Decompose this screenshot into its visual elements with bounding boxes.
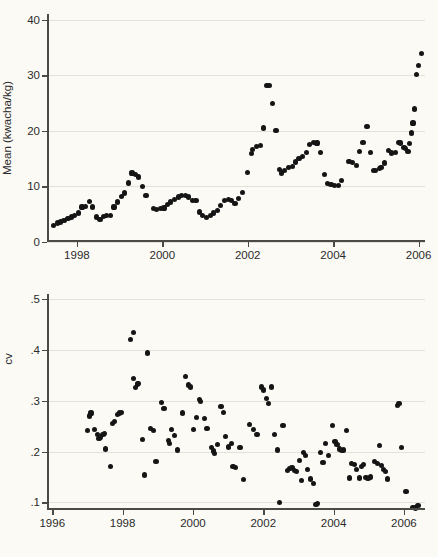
x-tick bbox=[404, 510, 405, 515]
data-point-cv bbox=[269, 384, 274, 389]
data-point-mean bbox=[218, 203, 223, 208]
data-point-cv bbox=[119, 410, 124, 415]
chart-panel-mean: Mean (kwacha/kg) 01020304019982000200220… bbox=[0, 0, 438, 285]
data-point-cv bbox=[153, 459, 158, 464]
data-point-cv bbox=[297, 458, 302, 463]
data-point-cv bbox=[330, 423, 335, 428]
y-tick-label: .2 bbox=[30, 446, 40, 458]
data-point-mean bbox=[357, 149, 362, 154]
gridline-y bbox=[47, 20, 425, 21]
data-point-cv bbox=[347, 475, 352, 480]
data-point-mean bbox=[108, 213, 113, 218]
data-point-mean bbox=[115, 199, 120, 204]
data-point-cv bbox=[145, 350, 150, 355]
data-point-mean bbox=[122, 190, 127, 195]
y-tick bbox=[42, 186, 47, 187]
x-tick-label: 2006 bbox=[406, 249, 432, 261]
data-point-mean bbox=[87, 199, 92, 204]
data-point-cv bbox=[277, 500, 282, 505]
x-tick bbox=[248, 242, 249, 247]
data-point-mean bbox=[410, 120, 415, 125]
data-point-cv bbox=[357, 475, 362, 480]
data-point-cv bbox=[272, 432, 277, 437]
data-point-cv bbox=[204, 426, 209, 431]
data-point-cv bbox=[399, 445, 404, 450]
data-point-cv bbox=[275, 447, 280, 452]
data-point-cv bbox=[194, 415, 199, 420]
data-point-mean bbox=[267, 83, 272, 88]
data-point-mean bbox=[419, 51, 424, 56]
data-point-cv bbox=[180, 410, 185, 415]
data-point-cv bbox=[247, 422, 252, 427]
data-point-cv bbox=[151, 428, 156, 433]
data-point-cv bbox=[140, 437, 145, 442]
figure-root: Mean (kwacha/kg) 01020304019982000200220… bbox=[0, 0, 438, 557]
x-tick-label: 1998 bbox=[64, 249, 90, 261]
data-point-cv bbox=[131, 330, 136, 335]
data-point-cv bbox=[108, 464, 113, 469]
x-tick bbox=[333, 242, 334, 247]
gridline-y bbox=[47, 452, 425, 453]
data-point-cv bbox=[233, 465, 238, 470]
y-axis-mean bbox=[47, 14, 49, 242]
y-tick-label: .1 bbox=[30, 496, 40, 508]
y-tick-label: .5 bbox=[30, 293, 40, 305]
data-point-cv bbox=[159, 400, 164, 405]
data-point-cv bbox=[266, 401, 271, 406]
data-point-cv bbox=[237, 445, 242, 450]
data-point-mean bbox=[393, 150, 398, 155]
plot-area-cv: cv .1.2.3.4.5199619982000200220042006 bbox=[47, 294, 425, 510]
data-point-mean bbox=[322, 172, 327, 177]
data-point-cv bbox=[212, 451, 217, 456]
x-axis-mean bbox=[47, 240, 425, 242]
x-tick bbox=[162, 242, 163, 247]
data-point-cv bbox=[315, 501, 320, 506]
data-point-mean bbox=[416, 63, 421, 68]
x-tick bbox=[52, 510, 53, 515]
data-point-cv bbox=[112, 419, 117, 424]
gridline-y bbox=[47, 131, 425, 132]
data-point-mean bbox=[143, 193, 148, 198]
x-tick bbox=[263, 510, 264, 515]
y-axis-title-mean: Mean (kwacha/kg) bbox=[1, 81, 13, 175]
data-point-cv bbox=[241, 477, 246, 482]
y-tick-label: 40 bbox=[27, 14, 40, 26]
y-tick bbox=[42, 242, 47, 243]
data-point-cv bbox=[396, 401, 401, 406]
y-tick bbox=[42, 401, 47, 402]
data-point-mean bbox=[232, 201, 237, 206]
data-point-mean bbox=[273, 128, 278, 133]
data-point-cv bbox=[261, 387, 266, 392]
data-point-mean bbox=[76, 210, 81, 215]
data-point-mean bbox=[83, 204, 88, 209]
data-point-cv bbox=[221, 410, 226, 415]
y-tick-label: 20 bbox=[27, 125, 40, 137]
chart-panel-cv: cv .1.2.3.4.5199619982000200220042006 bbox=[0, 280, 438, 557]
data-point-mean bbox=[407, 141, 412, 146]
data-point-cv bbox=[167, 441, 172, 446]
x-tick-label: 2000 bbox=[180, 517, 206, 529]
data-point-mean bbox=[193, 198, 198, 203]
x-tick-label: 2000 bbox=[150, 249, 176, 261]
data-point-mean bbox=[414, 72, 419, 77]
data-point-cv bbox=[403, 489, 408, 494]
data-point-mean bbox=[136, 174, 141, 179]
gridline-y bbox=[47, 401, 425, 402]
data-point-cv bbox=[85, 428, 90, 433]
data-point-cv bbox=[183, 374, 188, 379]
data-point-cv bbox=[280, 423, 285, 428]
data-point-mean bbox=[304, 150, 309, 155]
data-point-cv bbox=[361, 462, 366, 467]
data-point-cv bbox=[191, 427, 196, 432]
data-point-mean bbox=[126, 180, 131, 185]
x-axis-cv bbox=[47, 508, 425, 510]
x-tick-label: 2002 bbox=[235, 249, 261, 261]
data-point-mean bbox=[318, 150, 323, 155]
data-point-cv bbox=[385, 476, 390, 481]
data-point-cv bbox=[305, 467, 310, 472]
data-point-cv bbox=[415, 503, 420, 508]
data-point-cv bbox=[383, 469, 388, 474]
data-point-cv bbox=[215, 442, 220, 447]
data-point-cv bbox=[175, 447, 180, 452]
x-tick-label: 2002 bbox=[250, 517, 276, 529]
